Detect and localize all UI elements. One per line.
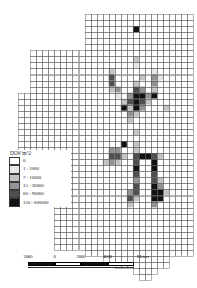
legend-swatch [9, 174, 20, 182]
legend-swatch [9, 165, 20, 173]
legend: DLW m^2 01 - 20007 - 1000015 - 3000060 -… [9, 150, 71, 207]
scale-bar-units-label: Meters [137, 254, 149, 259]
scale-bar-segment [108, 262, 135, 266]
grid-map-canvas [0, 0, 197, 288]
legend-rows: 01 - 20007 - 1000015 - 3000060 - 9000015… [9, 157, 71, 207]
legend-swatch [9, 198, 20, 206]
legend-swatch [9, 182, 20, 190]
scale-bar-segment [81, 262, 108, 266]
legend-swatch [9, 157, 20, 165]
scale-bar: 2000020004000Meters [28, 254, 163, 272]
legend-swatch [9, 190, 20, 198]
legend-title: DLW m^2 [9, 150, 71, 156]
legend-entry: 15 - 30000 [9, 182, 71, 190]
legend-entry: 0 [9, 157, 71, 165]
legend-entry: 60 - 90000 [9, 190, 71, 198]
scale-bar-segment [28, 262, 55, 266]
legend-entry: 150 - 600000 [9, 198, 71, 206]
scale-bar-tick-label: 4000 [103, 254, 112, 259]
scale-bar-tick-label: 2000 [77, 254, 86, 259]
map-figure: DLW m^2 01 - 20007 - 1000015 - 3000060 -… [0, 0, 197, 288]
scale-bar-tick-label: 2000 [24, 254, 33, 259]
legend-label: 15 - 30000 [23, 183, 44, 189]
legend-label: 150 - 600000 [23, 200, 48, 206]
scale-bar-tick-label: 0 [53, 254, 55, 259]
legend-label: 0 [23, 158, 25, 164]
legend-label: 60 - 90000 [23, 191, 44, 197]
legend-entry: 7 - 10000 [9, 174, 71, 182]
scale-bar-labels: 2000020004000Meters [28, 254, 163, 261]
legend-entry: 1 - 2000 [9, 165, 71, 173]
legend-label: 1 - 2000 [23, 166, 39, 172]
legend-label: 7 - 10000 [23, 175, 41, 181]
scale-bar-segment [55, 262, 82, 266]
scale-bar-graphic [28, 262, 134, 266]
grid-map-layer [0, 0, 197, 288]
scale-bar-rule [28, 267, 134, 268]
